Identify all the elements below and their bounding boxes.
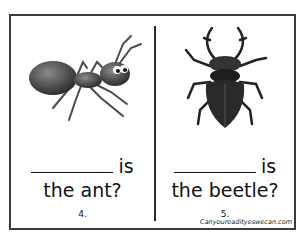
answer-blank[interactable] (174, 158, 256, 173)
worksheet-frame: is the ant? 4. is the beetle? (9, 14, 296, 230)
page-beetle: is the beetle? 5. Canyoureadityeswecan.c… (156, 16, 294, 228)
ant-illustration-icon (23, 32, 145, 128)
blank-suffix: is (261, 155, 276, 177)
question-text: the beetle? (156, 179, 294, 201)
question-line-1: is (11, 155, 154, 177)
answer-blank[interactable] (31, 158, 113, 173)
blank-suffix: is (118, 155, 133, 177)
page-number: 4. (11, 209, 154, 219)
beetle-illustration-icon (180, 24, 270, 134)
watermark: Canyoureadityeswecan.com (200, 218, 292, 226)
question-text: the ant? (11, 179, 154, 201)
page-ant: is the ant? 4. (11, 16, 154, 228)
question-line-1: is (156, 155, 294, 177)
